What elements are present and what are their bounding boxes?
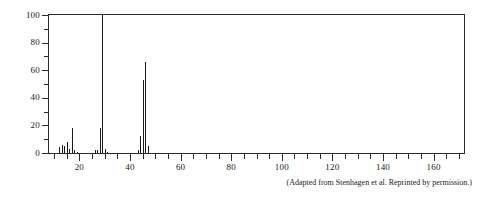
x-tick-minor — [421, 154, 422, 159]
x-tick-minor — [459, 154, 460, 159]
x-tick-label: 100 — [275, 163, 289, 172]
x-tick-label: 80 — [226, 163, 235, 172]
x-tick-major — [181, 154, 182, 161]
x-tick-minor — [219, 154, 220, 159]
x-tick-minor — [92, 154, 93, 159]
x-tick-label: 40 — [125, 163, 134, 172]
x-tick-major — [130, 154, 131, 161]
x-tick-minor — [206, 154, 207, 159]
x-tick-label: 140 — [376, 163, 390, 172]
x-tick-major — [79, 154, 80, 161]
x-tick-major — [282, 154, 283, 161]
x-tick-label: 160 — [427, 163, 441, 172]
x-tick-minor — [67, 154, 68, 159]
x-tick-minor — [345, 154, 346, 159]
x-tick-minor — [446, 154, 447, 159]
x-tick-major — [383, 154, 384, 161]
x-tick-minor — [143, 154, 144, 159]
x-tick-minor — [370, 154, 371, 159]
x-tick-minor — [257, 154, 258, 159]
x-tick-label: 60 — [176, 163, 185, 172]
x-tick-major — [434, 154, 435, 161]
x-tick-minor — [117, 154, 118, 159]
x-tick-minor — [358, 154, 359, 159]
x-tick-minor — [320, 154, 321, 159]
figure-caption: (Adapted from Stenhagen et al. Reprinted… — [0, 178, 472, 188]
x-tick-minor — [307, 154, 308, 159]
x-tick-minor — [244, 154, 245, 159]
x-tick-major — [231, 154, 232, 161]
mass-spectrum-figure: 020406080100 20406080100120140160 (Adapt… — [0, 0, 484, 200]
x-tick-minor — [193, 154, 194, 159]
x-tick-minor — [54, 154, 55, 159]
x-axis: 20406080100120140160 — [0, 0, 484, 200]
x-tick-minor — [408, 154, 409, 159]
x-tick-major — [332, 154, 333, 161]
x-tick-minor — [155, 154, 156, 159]
x-tick-label: 20 — [75, 163, 84, 172]
x-tick-label: 120 — [325, 163, 339, 172]
x-tick-minor — [105, 154, 106, 159]
x-tick-minor — [294, 154, 295, 159]
x-tick-minor — [396, 154, 397, 159]
x-tick-minor — [269, 154, 270, 159]
x-tick-minor — [168, 154, 169, 159]
